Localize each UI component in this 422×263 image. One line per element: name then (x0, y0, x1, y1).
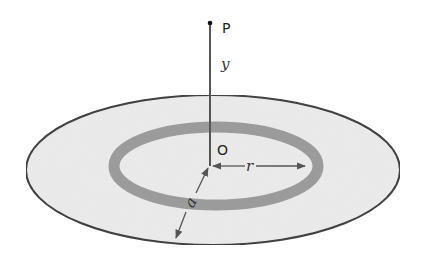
label-point-p: P (222, 20, 230, 36)
label-origin-o: O (217, 142, 228, 158)
ring-disk-diagram: P y O r a (0, 0, 422, 263)
disk (26, 95, 400, 245)
label-height-y: y (220, 55, 230, 73)
label-ring-radius-r: r (246, 157, 254, 175)
point-p-dot (208, 21, 213, 26)
